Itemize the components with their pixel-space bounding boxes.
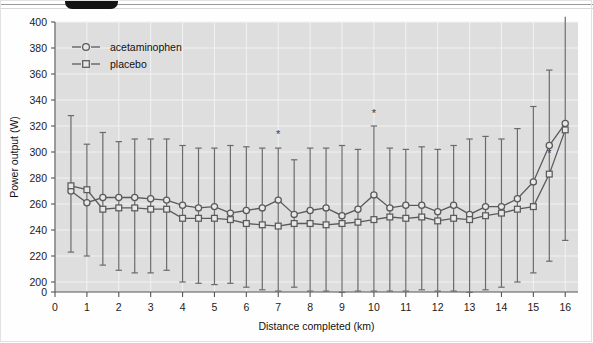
- legend-label: placebo: [110, 58, 147, 70]
- data-point-circle: [100, 194, 106, 200]
- y-axis-tick-label: 360: [29, 68, 47, 80]
- data-point-square: [403, 215, 409, 221]
- data-point-square: [419, 214, 425, 220]
- y-axis-tick-label: 200: [29, 276, 47, 288]
- data-point-circle: [211, 204, 217, 210]
- data-point-square: [227, 217, 233, 223]
- x-axis-tick-label: 14: [496, 301, 508, 313]
- data-point-circle: [514, 196, 520, 202]
- y-axis-ticks: 0200220240260280300320340360380400: [29, 16, 55, 298]
- x-axis-tick-label: 7: [275, 301, 281, 313]
- y-axis-tick-label: 240: [29, 224, 47, 236]
- significance-asterisk: *: [547, 147, 552, 159]
- data-point-square: [68, 183, 74, 189]
- y-axis-tick-label: 300: [29, 146, 47, 158]
- x-axis-tick-label: 0: [52, 301, 58, 313]
- data-point-square: [291, 221, 297, 227]
- data-point-circle: [164, 197, 170, 203]
- data-point-square: [243, 221, 249, 227]
- y-axis-tick-label: 220: [29, 250, 47, 262]
- y-axis-tick-label: 340: [29, 94, 47, 106]
- x-axis-tick-label: 16: [559, 301, 571, 313]
- data-point-square: [339, 221, 345, 227]
- x-axis-tick-label: 15: [528, 301, 540, 313]
- data-point-circle: [116, 194, 122, 200]
- data-point-circle: [498, 204, 504, 210]
- data-point-square: [323, 222, 329, 228]
- significance-asterisk: *: [372, 107, 377, 119]
- data-point-circle: [132, 194, 138, 200]
- data-point-square: [116, 205, 122, 211]
- data-point-square: [467, 217, 473, 223]
- data-point-square: [435, 218, 441, 224]
- data-point-square: [132, 205, 138, 211]
- x-axis-tick-label: 6: [243, 301, 249, 313]
- data-point-square: [259, 222, 265, 228]
- data-point-circle: [451, 202, 457, 208]
- data-point-circle: [419, 202, 425, 208]
- y-axis-tick-label: 400: [29, 16, 47, 28]
- x-axis-tick-label: 13: [464, 301, 476, 313]
- significance-asterisk: *: [276, 128, 281, 140]
- x-axis-tick-label: 1: [84, 301, 90, 313]
- data-point-circle: [355, 206, 361, 212]
- data-point-circle: [291, 211, 297, 217]
- x-axis-tick-label: 9: [339, 301, 345, 313]
- data-point-circle: [179, 202, 185, 208]
- y-axis-tick-label: 280: [29, 172, 47, 184]
- data-point-square: [387, 214, 393, 220]
- data-point-square: [275, 223, 281, 229]
- data-point-circle: [227, 210, 233, 216]
- x-axis-title: Distance completed (km): [258, 320, 374, 332]
- data-point-square: [562, 127, 568, 133]
- data-point-circle: [482, 204, 488, 210]
- x-axis-tick-label: 12: [432, 301, 444, 313]
- y-axis-tick-label: 260: [29, 198, 47, 210]
- data-point-square: [483, 213, 489, 219]
- x-axis-ticks: 012345678910111213141516: [52, 292, 571, 313]
- figure-container: 0200220240260280300320340360380400012345…: [0, 0, 593, 343]
- data-point-circle: [307, 207, 313, 213]
- line-chart: 0200220240260280300320340360380400012345…: [0, 0, 593, 343]
- legend-marker-circle: [83, 44, 90, 51]
- data-point-square: [355, 219, 361, 225]
- x-axis-tick-label: 11: [400, 301, 411, 313]
- data-point-circle: [195, 205, 201, 211]
- data-point-circle: [562, 120, 568, 126]
- x-axis-tick-label: 8: [307, 301, 313, 313]
- data-point-square: [499, 210, 505, 216]
- data-point-circle: [323, 205, 329, 211]
- data-point-circle: [84, 200, 90, 206]
- data-point-square: [180, 215, 186, 221]
- data-point-circle: [243, 207, 249, 213]
- data-point-circle: [435, 209, 441, 215]
- data-point-circle: [530, 179, 536, 185]
- data-point-square: [84, 187, 90, 193]
- data-point-square: [164, 206, 170, 212]
- data-point-square: [100, 206, 106, 212]
- data-point-square: [451, 215, 457, 221]
- x-axis-tick-label: 3: [148, 301, 154, 313]
- data-point-square: [371, 217, 377, 223]
- data-point-circle: [275, 197, 281, 203]
- x-axis-tick-label: 4: [180, 301, 186, 313]
- data-point-square: [530, 204, 536, 210]
- legend-marker-square: [83, 61, 90, 68]
- y-axis-title: Power output (W): [8, 116, 20, 198]
- x-axis-tick-label: 2: [116, 301, 122, 313]
- x-axis-tick-label: 10: [368, 301, 380, 313]
- data-point-circle: [339, 213, 345, 219]
- legend-label: acetaminophen: [110, 41, 182, 53]
- data-point-square: [212, 215, 218, 221]
- data-point-square: [148, 206, 154, 212]
- y-axis-tick-label: 320: [29, 120, 47, 132]
- data-point-circle: [387, 205, 393, 211]
- data-point-circle: [371, 192, 377, 198]
- data-point-circle: [148, 196, 154, 202]
- data-point-square: [307, 221, 313, 227]
- data-point-circle: [403, 202, 409, 208]
- data-point-square: [196, 215, 202, 221]
- data-point-square: [546, 171, 552, 177]
- data-point-square: [515, 206, 521, 212]
- data-point-circle: [259, 205, 265, 211]
